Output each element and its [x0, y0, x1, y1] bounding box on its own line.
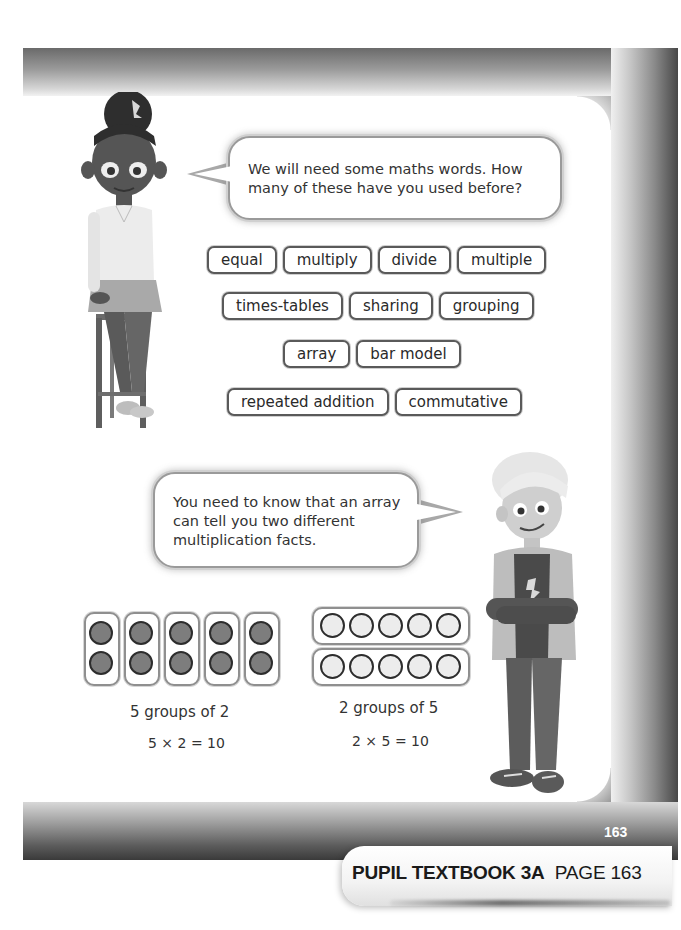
counter: [209, 621, 233, 645]
vocab-row: array bar model: [283, 340, 461, 368]
boy-illustration: [478, 450, 588, 810]
frame-corner: [577, 96, 611, 130]
array-group: [244, 612, 280, 686]
array-group: [84, 612, 120, 686]
counter: [378, 613, 403, 638]
vocab-chip: grouping: [439, 292, 534, 320]
counter: [129, 621, 153, 645]
counter: [249, 651, 273, 675]
array-group: [204, 612, 240, 686]
counter: [320, 654, 345, 679]
vocab-row: times-tables sharing grouping: [222, 292, 534, 320]
counter: [129, 651, 153, 675]
vocab-chip: divide: [378, 246, 451, 274]
textbook-page: PAGE 163: [555, 862, 642, 883]
speech-bubble-tail-inner: [412, 503, 456, 521]
array-equation: 2 × 5 = 10: [352, 733, 429, 749]
array-caption: 2 groups of 5: [339, 699, 438, 717]
counter: [407, 654, 432, 679]
speech-text: You need to know that an array can tell …: [173, 493, 413, 550]
counter: [249, 621, 273, 645]
speech-bubble-tail-inner: [194, 166, 232, 182]
textbook-reference: PUPIL TEXTBOOK 3A PAGE 163: [352, 862, 642, 884]
counter: [436, 654, 461, 679]
counter: [407, 613, 432, 638]
textbook-title: PUPIL TEXTBOOK 3A: [352, 862, 545, 883]
vocab-chip: multiply: [283, 246, 372, 274]
speech-text: We will need some maths words. How many …: [248, 160, 548, 198]
vocab-chip: sharing: [349, 292, 433, 320]
vocab-row: equal multiply divide multiple: [207, 246, 546, 274]
counter: [209, 651, 233, 675]
frame-top-band: [23, 48, 678, 96]
frame-right-band: [611, 48, 678, 860]
vocab-chip: equal: [207, 246, 277, 274]
speech-bubble-girl: We will need some maths words. How many …: [228, 136, 562, 220]
counter: [169, 621, 193, 645]
girl-illustration: [80, 92, 190, 432]
counter: [89, 651, 113, 675]
counter: [169, 651, 193, 675]
array-group: [312, 648, 470, 686]
array-group: [124, 612, 160, 686]
counter: [378, 654, 403, 679]
page-number: 163: [604, 824, 627, 840]
counter: [89, 621, 113, 645]
vocab-chip: bar model: [356, 340, 460, 368]
vocab-chip: multiple: [457, 246, 546, 274]
vocab-chip: commutative: [395, 388, 522, 416]
counter: [436, 613, 461, 638]
vocab-chip: times-tables: [222, 292, 343, 320]
counter: [349, 654, 374, 679]
vocab-chip: array: [283, 340, 350, 368]
speech-bubble-boy: You need to know that an array can tell …: [153, 472, 419, 568]
vocab-row: repeated addition commutative: [227, 388, 522, 416]
vocab-chip: repeated addition: [227, 388, 389, 416]
counter: [349, 613, 374, 638]
array-equation: 5 × 2 = 10: [148, 735, 225, 751]
tab-shadow: [390, 900, 670, 906]
array-group: [312, 607, 470, 645]
counter: [320, 613, 345, 638]
array-caption: 5 groups of 2: [130, 703, 229, 721]
array-group: [164, 612, 200, 686]
